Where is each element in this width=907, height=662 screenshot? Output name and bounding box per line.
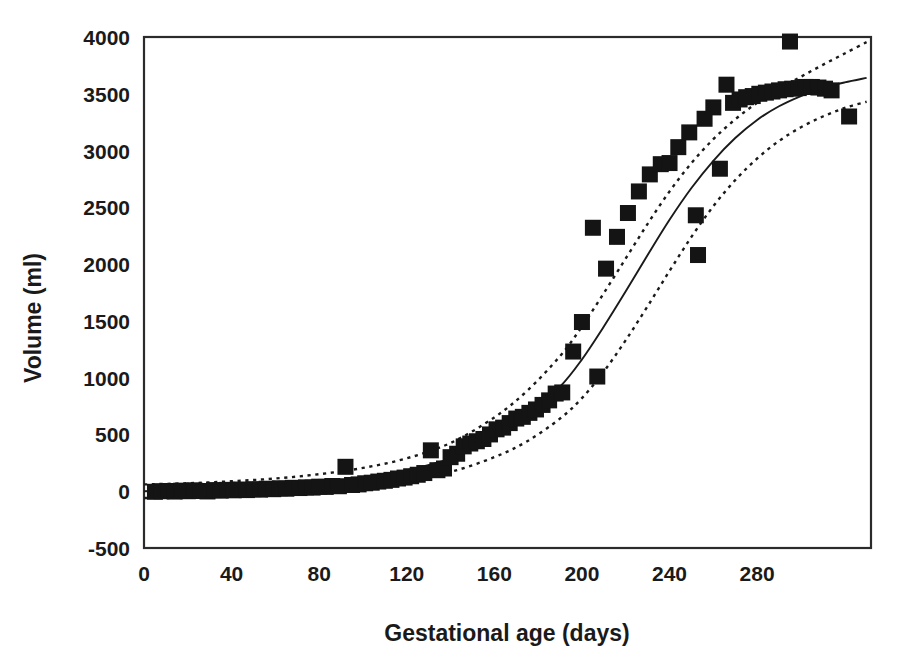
y-axis-title: Volume (ml): [20, 253, 46, 383]
x-tick-label: 280: [740, 562, 775, 585]
x-tick-label: 80: [308, 562, 331, 585]
x-tick-label: 160: [477, 562, 512, 585]
data-point-marker: [670, 139, 686, 155]
volume-vs-gestational-age-chart: -50005001000150020002500300035004000 040…: [0, 0, 907, 662]
data-point-marker: [705, 99, 721, 115]
data-point-marker: [337, 459, 353, 475]
data-point-marker: [824, 82, 840, 98]
x-tick-label: 0: [138, 562, 150, 585]
y-tick-label: 2000: [83, 253, 130, 276]
y-tick-label: 3000: [83, 140, 130, 163]
data-point-marker: [681, 124, 697, 140]
x-axis-title: Gestational age (days): [384, 620, 629, 646]
y-tick-label: 500: [95, 423, 130, 446]
x-tick-label: 200: [564, 562, 599, 585]
y-tick-label: -500: [88, 537, 130, 560]
data-point-marker: [609, 229, 625, 245]
x-tick-label: 240: [652, 562, 687, 585]
data-point-marker: [589, 369, 605, 385]
chart-page: -50005001000150020002500300035004000 040…: [0, 0, 907, 662]
y-tick-label: 1500: [83, 310, 130, 333]
data-point-marker: [631, 183, 647, 199]
data-point-marker: [690, 247, 706, 263]
y-tick-label: 1000: [83, 367, 130, 390]
data-point-marker: [662, 155, 678, 171]
y-tick-label: 4000: [83, 26, 130, 49]
data-point-marker: [574, 314, 590, 330]
x-tick-label: 40: [220, 562, 243, 585]
data-point-marker: [585, 220, 601, 236]
data-point-marker: [620, 205, 636, 221]
data-point-marker: [782, 34, 798, 50]
data-point-marker: [423, 442, 439, 458]
data-point-marker: [688, 207, 704, 223]
data-point-marker: [565, 344, 581, 360]
data-point-marker: [554, 384, 570, 400]
y-tick-label: 3500: [83, 83, 130, 106]
y-tick-label: 0: [118, 480, 130, 503]
data-point-marker: [712, 161, 728, 177]
x-tick-label: 120: [389, 562, 424, 585]
data-point-marker: [841, 108, 857, 124]
data-point-marker: [598, 261, 614, 277]
data-point-marker: [718, 77, 734, 93]
y-tick-label: 2500: [83, 196, 130, 219]
